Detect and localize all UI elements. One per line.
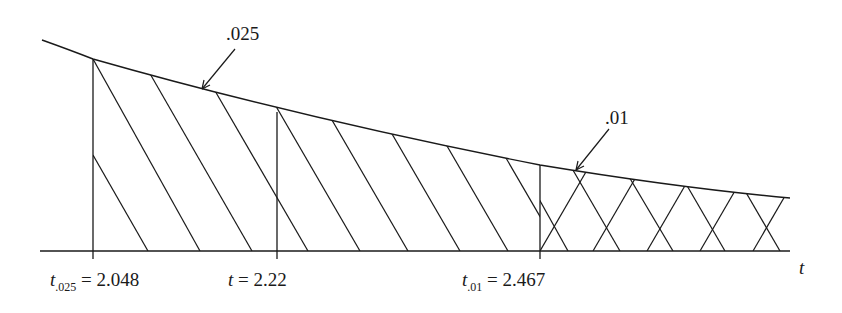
label-tobs-equals: = xyxy=(238,269,249,290)
diagram-canvas xyxy=(0,0,842,313)
label-tobs-value: 2.22 xyxy=(254,269,287,290)
label-t01-equals: = xyxy=(487,269,498,290)
label-t01-value: 2.467 xyxy=(503,269,546,290)
axis-label-t: t xyxy=(799,258,804,277)
label-t025-value: 2.048 xyxy=(97,269,140,290)
label-t025: t.025 = 2.048 xyxy=(50,270,139,289)
hatch-region-025 xyxy=(93,59,608,251)
label-t025-subscript: .025 xyxy=(55,280,76,294)
arrow-01 xyxy=(576,129,609,170)
label-tobs-symbol: t xyxy=(228,269,233,290)
t-distribution-diagram: .025 .01 t t.025 = 2.048 t = 2.22 t.01 =… xyxy=(0,0,842,313)
label-t01: t.01 = 2.467 xyxy=(462,270,545,289)
annotation-alpha-025: .025 xyxy=(226,24,259,43)
label-t01-subscript: .01 xyxy=(467,280,482,294)
hatch-region-01 xyxy=(520,165,833,251)
label-t025-equals: = xyxy=(81,269,92,290)
annotation-alpha-01: .01 xyxy=(605,108,629,127)
arrow-025 xyxy=(202,49,235,89)
label-t-observed: t = 2.22 xyxy=(228,270,287,289)
